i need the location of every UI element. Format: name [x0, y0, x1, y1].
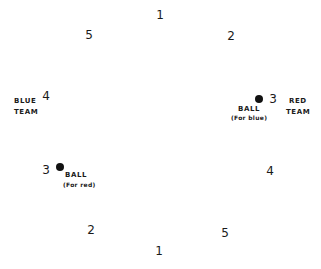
ball-for-red-label: BALL: [65, 171, 87, 179]
position-top-right-2: 2: [227, 30, 235, 42]
position-left-3: 3: [42, 164, 50, 176]
red-team-label-line1: RED: [289, 97, 307, 105]
position-bottom-left-2: 2: [87, 224, 95, 236]
position-bottom-right-5: 5: [221, 227, 229, 239]
position-left-4: 4: [42, 90, 50, 102]
position-top-left-5: 5: [85, 29, 93, 41]
position-right-3: 3: [269, 93, 277, 105]
ball-for-red-icon: [56, 163, 64, 171]
position-right-4: 4: [266, 165, 274, 177]
blue-team-label-line1: BLUE: [14, 97, 36, 105]
ball-for-red-note: (For red): [63, 181, 96, 188]
ball-for-blue-note: (For blue): [231, 114, 267, 121]
position-bottom-1: 1: [155, 245, 163, 257]
ball-for-blue-label: BALL: [238, 105, 260, 113]
blue-team-label-line2: TEAM: [14, 108, 38, 116]
ball-for-blue-icon: [255, 95, 263, 103]
red-team-label-line2: TEAM: [286, 108, 310, 116]
position-top-1: 1: [156, 9, 164, 21]
